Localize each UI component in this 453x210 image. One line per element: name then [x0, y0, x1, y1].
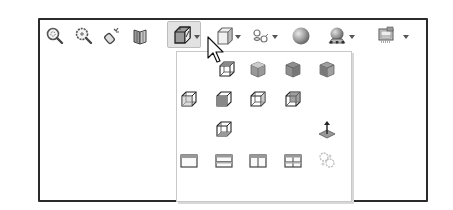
trimetric-view-icon[interactable]: [282, 88, 304, 110]
right-view-icon[interactable]: [316, 58, 338, 80]
display-style-dropdown-arrow[interactable]: [234, 33, 242, 41]
single-view-icon[interactable]: [178, 150, 200, 172]
zoom-to-fit-icon[interactable]: [44, 25, 66, 47]
view-orientation-icon[interactable]: [171, 24, 193, 46]
view-settings-dropdown-arrow[interactable]: [402, 33, 410, 41]
bottom-view-icon[interactable]: [213, 88, 235, 110]
hide-show-items-dropdown-arrow[interactable]: [271, 33, 279, 41]
normal-to-icon[interactable]: [316, 118, 338, 140]
hide-show-items-icon[interactable]: [249, 25, 271, 47]
four-view-icon[interactable]: [282, 150, 304, 172]
two-view-vertical-icon[interactable]: [247, 150, 269, 172]
left-view-icon[interactable]: [282, 58, 304, 80]
back-view-icon[interactable]: [247, 58, 269, 80]
isometric-view-icon[interactable]: [247, 88, 269, 110]
mouse-cursor-icon: [206, 36, 228, 66]
scene-dropdown-arrow[interactable]: [348, 33, 356, 41]
zoom-to-area-icon[interactable]: [73, 25, 95, 47]
link-views-icon[interactable]: [316, 149, 338, 171]
dimetric-view-icon[interactable]: [213, 118, 235, 140]
two-view-horizontal-icon[interactable]: [213, 150, 235, 172]
previous-view-icon[interactable]: [101, 25, 123, 47]
view-orientation-dropdown-arrow[interactable]: [193, 33, 201, 41]
section-view-icon[interactable]: [129, 25, 151, 47]
appearance-sphere-icon[interactable]: [290, 25, 312, 47]
scene-icon[interactable]: [326, 25, 348, 47]
view-settings-icon[interactable]: [375, 24, 397, 46]
top-view-icon[interactable]: [178, 88, 200, 110]
